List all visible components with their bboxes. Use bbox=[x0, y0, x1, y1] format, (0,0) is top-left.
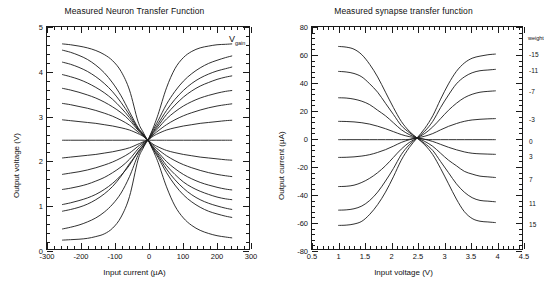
y-tick-label: 60 bbox=[300, 51, 308, 60]
x-major-tick bbox=[81, 243, 82, 249]
y-minor-tick bbox=[519, 49, 522, 50]
x-minor-tick bbox=[95, 27, 96, 30]
y-minor-tick bbox=[312, 77, 315, 78]
x-major-tick bbox=[251, 243, 252, 249]
x-minor-tick bbox=[231, 246, 232, 249]
y-minor-tick bbox=[312, 117, 315, 118]
x-minor-tick bbox=[54, 27, 55, 30]
x-major-tick bbox=[251, 27, 252, 33]
x-minor-tick bbox=[317, 246, 318, 249]
curve-label-weight-3: 3 bbox=[529, 152, 533, 159]
y-minor-tick bbox=[312, 240, 315, 241]
y-minor-tick bbox=[47, 54, 50, 55]
y-minor-tick bbox=[312, 122, 315, 123]
y-minor-tick bbox=[47, 233, 50, 234]
y-minor-tick bbox=[246, 179, 249, 180]
y-minor-tick bbox=[312, 94, 315, 95]
neuron-curves bbox=[47, 27, 249, 249]
y-tick-label: -40 bbox=[297, 191, 308, 200]
y-major-tick bbox=[47, 161, 53, 162]
x-major-tick bbox=[115, 27, 116, 33]
x-minor-tick bbox=[317, 27, 318, 30]
x-tick-label: -100 bbox=[107, 252, 122, 261]
x-minor-tick bbox=[460, 27, 461, 30]
y-minor-tick bbox=[312, 156, 315, 157]
y-minor-tick bbox=[47, 179, 50, 180]
x-minor-tick bbox=[61, 27, 62, 30]
x-minor-tick bbox=[54, 246, 55, 249]
y-major-tick bbox=[312, 223, 318, 224]
x-minor-tick bbox=[122, 27, 123, 30]
x-minor-tick bbox=[237, 246, 238, 249]
y-minor-tick bbox=[519, 133, 522, 134]
y-minor-tick bbox=[47, 108, 50, 109]
x-minor-tick bbox=[67, 27, 68, 30]
y-minor-tick bbox=[312, 145, 315, 146]
x-minor-tick bbox=[360, 246, 361, 249]
x-minor-tick bbox=[407, 246, 408, 249]
y-major-tick bbox=[312, 83, 318, 84]
x-tick-label: 2.5 bbox=[413, 252, 423, 261]
vgain-annotation: Vgain bbox=[229, 34, 245, 46]
x-major-tick bbox=[81, 27, 82, 33]
x-major-tick bbox=[312, 27, 313, 33]
x-minor-tick bbox=[402, 246, 403, 249]
y-minor-tick bbox=[246, 143, 249, 144]
x-minor-tick bbox=[466, 27, 467, 30]
y-minor-tick bbox=[47, 152, 50, 153]
y-minor-tick bbox=[312, 201, 315, 202]
synapse-chart-title: Measured synapse transfer function bbox=[269, 6, 538, 16]
x-major-tick bbox=[445, 243, 446, 249]
x-minor-tick bbox=[88, 246, 89, 249]
x-minor-tick bbox=[203, 27, 204, 30]
x-minor-tick bbox=[101, 27, 102, 30]
neuron-x-axis-title: Input current (µA) bbox=[0, 268, 269, 277]
y-minor-tick bbox=[312, 66, 315, 67]
x-minor-tick bbox=[381, 27, 382, 30]
y-minor-tick bbox=[312, 173, 315, 174]
y-minor-tick bbox=[246, 242, 249, 243]
x-tick-label: -300 bbox=[39, 252, 54, 261]
x-minor-tick bbox=[101, 246, 102, 249]
y-minor-tick bbox=[312, 133, 315, 134]
x-minor-tick bbox=[519, 27, 520, 30]
x-minor-tick bbox=[519, 246, 520, 249]
y-minor-tick bbox=[519, 161, 522, 162]
y-minor-tick bbox=[519, 240, 522, 241]
x-major-tick bbox=[183, 27, 184, 33]
x-major-tick bbox=[47, 243, 48, 249]
y-major-tick bbox=[243, 206, 249, 207]
x-major-tick bbox=[365, 243, 366, 249]
y-minor-tick bbox=[519, 128, 522, 129]
y-tick-label: 0 bbox=[304, 135, 308, 144]
x-minor-tick bbox=[190, 246, 191, 249]
y-minor-tick bbox=[312, 89, 315, 90]
x-minor-tick bbox=[108, 27, 109, 30]
x-major-tick bbox=[47, 27, 48, 33]
x-major-tick bbox=[217, 243, 218, 249]
y-major-tick bbox=[47, 206, 53, 207]
x-minor-tick bbox=[370, 27, 371, 30]
y-minor-tick bbox=[519, 150, 522, 151]
y-minor-tick bbox=[47, 36, 50, 37]
x-minor-tick bbox=[197, 246, 198, 249]
x-tick-label: 200 bbox=[211, 252, 224, 261]
curve-label-weight-minus3: -3 bbox=[529, 116, 535, 123]
x-minor-tick bbox=[429, 246, 430, 249]
x-major-tick bbox=[498, 243, 499, 249]
x-major-tick bbox=[524, 243, 525, 249]
x-minor-tick bbox=[455, 27, 456, 30]
curve-gain-7b bbox=[62, 56, 232, 229]
x-minor-tick bbox=[503, 27, 504, 30]
x-tick-label: 300 bbox=[245, 252, 258, 261]
y-minor-tick bbox=[519, 61, 522, 62]
x-minor-tick bbox=[129, 246, 130, 249]
synapse-y-axis-title: Output current (µA) bbox=[277, 131, 286, 200]
y-major-tick bbox=[312, 139, 318, 140]
curve-label-weight-7: 7 bbox=[529, 175, 533, 182]
x-major-tick bbox=[365, 27, 366, 33]
x-minor-tick bbox=[74, 27, 75, 30]
x-minor-tick bbox=[429, 27, 430, 30]
y-minor-tick bbox=[312, 217, 315, 218]
